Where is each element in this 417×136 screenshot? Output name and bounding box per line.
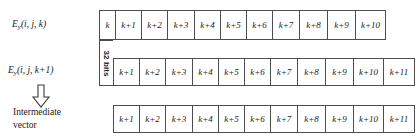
intermediate-vector-diagram: Ey(i, j, k) Ey(i, j, k+1) Intermediate v… bbox=[0, 0, 417, 136]
row-label-ey-i-j-k: Ey(i, j, k) bbox=[12, 20, 46, 31]
cell-ey-i-j-k-plus-1-7: k+8 bbox=[298, 59, 326, 85]
cell-strip-ey-i-j-k-plus-1: k+1k+2k+3k+4k+5k+6k+7k+8k+9k+10k+11 bbox=[113, 58, 415, 86]
cell-ey-i-j-k-plus-1-9: k+10 bbox=[354, 59, 384, 85]
row-label-ey-args: (i, j, k) bbox=[21, 19, 46, 29]
cell-ey-i-j-k-7: k+7 bbox=[273, 11, 300, 39]
cell-ey-i-j-k-plus-1-8: k+9 bbox=[326, 59, 354, 85]
cell-intermediate-vector-2: k+3 bbox=[166, 106, 193, 132]
cell-intermediate-vector-1: k+2 bbox=[140, 106, 166, 132]
caption-line-2: vector bbox=[13, 119, 93, 132]
cell-ey-i-j-k-plus-1-0: k+1 bbox=[114, 59, 140, 85]
cell-intermediate-vector-7: k+8 bbox=[298, 106, 326, 132]
cell-ey-i-j-k-plus-1-6: k+7 bbox=[271, 59, 298, 85]
cell-ey-i-j-k-4: k+4 bbox=[195, 11, 221, 39]
cell-intermediate-vector-6: k+7 bbox=[271, 106, 298, 132]
cell-ey-i-j-k-9: k+9 bbox=[328, 11, 356, 39]
cell-ey-i-j-k-0: k bbox=[100, 11, 116, 39]
cell-intermediate-vector-8: k+9 bbox=[326, 106, 354, 132]
cell-ey-i-j-k-plus-1-10: k+11 bbox=[384, 59, 414, 85]
cell-intermediate-vector-5: k+6 bbox=[245, 106, 271, 132]
cell-ey-i-j-k-10: k+10 bbox=[356, 11, 385, 39]
bits-label: 32 bits bbox=[102, 50, 111, 76]
cell-ey-i-j-k-plus-1-4: k+5 bbox=[219, 59, 245, 85]
cell-intermediate-vector-9: k+10 bbox=[354, 106, 384, 132]
row-label-ey-i-j-k-plus-1: Ey(i, j, k+1) bbox=[8, 66, 53, 77]
arrow-down-outline-icon bbox=[30, 84, 52, 108]
cell-strip-ey-i-j-k: kk+1k+2k+3k+4k+5k+6k+7k+8k+9k+10 bbox=[99, 10, 386, 40]
cell-ey-i-j-k-1: k+1 bbox=[116, 11, 142, 39]
cell-intermediate-vector-4: k+5 bbox=[219, 106, 245, 132]
bits-label-wrapper: 32 bits bbox=[99, 40, 113, 86]
cell-ey-i-j-k-5: k+5 bbox=[221, 11, 247, 39]
caption-line-1: Intermediate bbox=[13, 106, 93, 119]
cell-ey-i-j-k-plus-1-3: k+4 bbox=[193, 59, 219, 85]
cell-intermediate-vector-10: k+11 bbox=[384, 106, 414, 132]
cell-ey-i-j-k-plus-1-2: k+3 bbox=[166, 59, 193, 85]
intermediate-vector-caption: Intermediate vector bbox=[13, 106, 93, 131]
cell-ey-i-j-k-6: k+6 bbox=[247, 11, 273, 39]
cell-intermediate-vector-0: k+1 bbox=[114, 106, 140, 132]
cell-strip-intermediate-vector: k+1k+2k+3k+4k+5k+6k+7k+8k+9k+10k+11 bbox=[113, 105, 415, 133]
cell-ey-i-j-k-plus-1-5: k+6 bbox=[245, 59, 271, 85]
row-label-ey-k1-args: (i, j, k+1) bbox=[17, 65, 53, 75]
cell-ey-i-j-k-3: k+3 bbox=[168, 11, 195, 39]
cell-ey-i-j-k-2: k+2 bbox=[142, 11, 168, 39]
cell-intermediate-vector-3: k+4 bbox=[193, 106, 219, 132]
cell-ey-i-j-k-8: k+8 bbox=[300, 11, 328, 39]
cell-ey-i-j-k-plus-1-1: k+2 bbox=[140, 59, 166, 85]
